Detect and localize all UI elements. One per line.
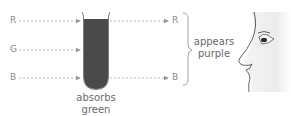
result-caption-line1: appears — [192, 36, 236, 48]
face-profile-icon — [239, 12, 291, 92]
result-caption-line2: purple — [192, 48, 236, 60]
green-in-label: G — [10, 45, 17, 54]
red-in-label: R — [10, 16, 16, 25]
result-caption: appears purple — [192, 36, 236, 60]
outgoing-arrows — [110, 21, 168, 78]
red-out-label: R — [172, 16, 178, 25]
brace-icon — [183, 13, 192, 85]
blue-out-label: B — [172, 73, 178, 82]
tube-caption: absorbs green — [66, 92, 126, 116]
blue-in-label: B — [10, 73, 16, 82]
tube-caption-line1: absorbs — [66, 92, 126, 104]
test-tube-icon — [82, 12, 110, 90]
diagram-graphics — [0, 0, 291, 116]
tube-caption-line2: green — [66, 104, 126, 116]
incoming-arrows — [19, 21, 80, 78]
